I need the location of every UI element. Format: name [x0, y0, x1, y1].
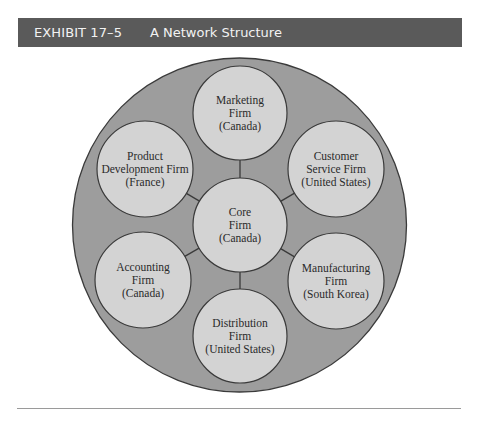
node-label-line: Firm: [229, 107, 251, 119]
node-label-line: Core: [229, 206, 251, 218]
node-label-line: (Canada): [219, 120, 261, 133]
node-core: CoreFirm(Canada): [193, 178, 287, 272]
node-manufacturing: ManufacturingFirm(South Korea): [288, 233, 384, 329]
node-accounting: AccountingFirm(Canada): [95, 232, 191, 328]
node-label-line: Marketing: [216, 94, 264, 107]
node-label-line: (Canada): [219, 232, 261, 245]
node-distribution: DistributionFirm(United States): [193, 289, 287, 383]
node-label-line: Service Firm: [306, 163, 366, 175]
node-label-line: Firm: [132, 274, 154, 286]
node-label-line: (United States): [205, 343, 274, 356]
node-label-line: Firm: [325, 275, 347, 287]
node-product-development: ProductDevelopment Firm(France): [97, 121, 193, 217]
node-label-line: Manufacturing: [302, 262, 371, 275]
node-label-line: (South Korea): [303, 288, 369, 301]
network-structure-diagram: CoreFirm(Canada)MarketingFirm(Canada)Cus…: [0, 0, 483, 422]
node-marketing: MarketingFirm(Canada): [193, 66, 287, 160]
node-label-line: Firm: [229, 330, 251, 342]
node-customer-service: CustomerService Firm(United States): [288, 121, 384, 217]
node-label-line: (Canada): [122, 287, 164, 300]
node-label-line: Distribution: [212, 317, 268, 329]
node-label-line: (France): [126, 176, 165, 189]
node-label-line: Accounting: [116, 261, 170, 274]
node-label-line: Product: [127, 150, 164, 162]
node-label-line: Development Firm: [101, 163, 188, 176]
bottom-rule: [17, 408, 461, 409]
node-label-line: Customer: [314, 150, 359, 162]
node-label-line: (United States): [301, 176, 370, 189]
node-label-line: Firm: [229, 219, 251, 231]
